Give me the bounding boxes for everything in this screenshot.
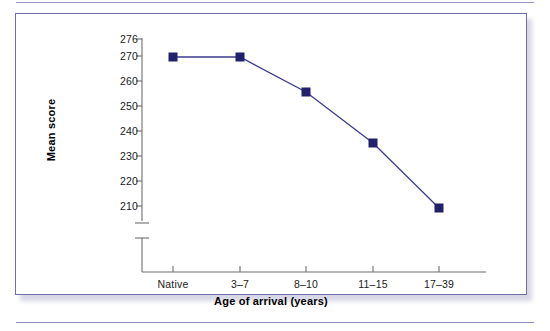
x-axis-title: Age of arrival (years)	[16, 295, 526, 307]
chart-svg	[16, 14, 528, 296]
x-tick-label-3-7: 3–7	[231, 278, 249, 290]
x-tick-marks	[173, 266, 439, 272]
page-rule-top	[16, 2, 534, 3]
y-tick-label-220: 220	[120, 175, 138, 187]
series-line-mean-score	[173, 57, 439, 208]
y-tick-label-210: 210	[120, 200, 138, 212]
data-point-8-10	[302, 88, 311, 97]
series-markers-mean-score	[169, 53, 444, 213]
y-tick-label-240: 240	[120, 125, 138, 137]
y-axis-title: Mean score	[45, 75, 57, 185]
chart-plot-area: 276 270 260 250 240 230 220 210 Mean sco…	[16, 14, 526, 294]
y-tick-label-276: 276	[120, 33, 138, 45]
x-tick-label-17-39: 17–39	[424, 278, 454, 290]
data-point-3-7	[236, 53, 245, 62]
data-point-native	[169, 53, 178, 62]
y-tick-label-230: 230	[120, 150, 138, 162]
y-tick-label-250: 250	[120, 100, 138, 112]
data-point-11-15	[369, 139, 378, 148]
x-tick-label-11-15: 11–15	[358, 278, 387, 290]
y-tick-label-260: 260	[120, 75, 138, 87]
y-tick-label-270: 270	[120, 50, 138, 62]
y-tick-label-group: 276 270 260 250 240 230 220 210	[102, 14, 138, 294]
page-rule-bottom	[16, 322, 534, 323]
x-tick-label-native: Native	[158, 278, 189, 290]
x-tick-label-8-10: 8–10	[294, 278, 318, 290]
data-point-17-39	[435, 204, 444, 213]
figure-frame: 276 270 260 250 240 230 220 210 Mean sco…	[15, 13, 527, 295]
